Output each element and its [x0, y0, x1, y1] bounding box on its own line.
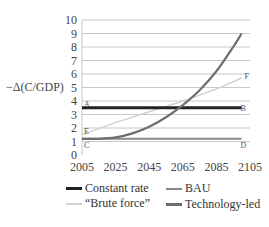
y-tick-label: 8 [71, 40, 77, 54]
legend-item-bau: BAU [166, 181, 210, 196]
x-tick-label: 2085 [204, 160, 228, 174]
legend-item-constant-rate: Constant rate [66, 181, 149, 196]
y-axis-label: −Δ(C/GDP) [6, 80, 64, 94]
point-label: B [241, 104, 246, 113]
y-tick-label: 10 [65, 13, 77, 27]
point-label: D [241, 141, 247, 150]
point-label: C [84, 141, 89, 150]
legend-swatch-constant-rate [66, 187, 82, 190]
y-tick-label: 7 [71, 54, 77, 68]
x-tick-label: 2065 [171, 160, 195, 174]
y-tick-label: 9 [71, 27, 77, 41]
legend-item-technology-led: Technology-led [166, 197, 260, 212]
y-tick-label: 2 [71, 121, 77, 135]
legend-label: Technology-led [185, 197, 260, 212]
legend-label: Constant rate [85, 181, 149, 196]
legend-label: “Brute force” [85, 196, 150, 211]
point-label: F [245, 72, 250, 81]
x-tick-label: 2005 [70, 160, 94, 174]
x-tick-label: 2025 [104, 160, 128, 174]
legend-item-brute-force: “Brute force” [66, 196, 150, 211]
legend-swatch-bau [166, 188, 182, 190]
point-label: A [84, 100, 90, 109]
y-tick-label: 1 [71, 135, 77, 149]
y-tick-label: 4 [71, 94, 77, 108]
x-tick-label: 2105 [238, 160, 262, 174]
point-label: E [84, 127, 89, 136]
y-tick-label: 6 [71, 67, 77, 81]
legend-swatch-technology-led [166, 203, 182, 206]
y-tick-label: 5 [71, 81, 77, 95]
series-line [82, 34, 242, 139]
x-axis-ticks: 200520252045206520852105 [70, 160, 262, 174]
legend-swatch-brute-force [66, 203, 82, 205]
gridlines [82, 20, 250, 155]
y-axis-ticks: 012345678910 [65, 13, 77, 162]
data-series [82, 34, 242, 139]
x-tick-label: 2045 [137, 160, 161, 174]
legend-label: BAU [185, 181, 210, 196]
y-tick-label: 3 [71, 108, 77, 122]
